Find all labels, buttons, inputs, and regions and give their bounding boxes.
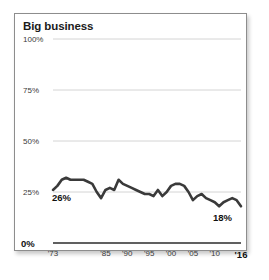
- screenshot-root: Big business 0%25%50%75%100% '73'85'90'9…: [0, 0, 269, 280]
- chart-card: Big business 0%25%50%75%100% '73'85'90'9…: [14, 13, 247, 251]
- x-tick-label-05: '05: [188, 249, 198, 258]
- y-tick-label-0%: 0%: [21, 238, 35, 249]
- y-tick-label-75%: 75%: [23, 86, 39, 95]
- x-tick-label-16: '16: [235, 249, 248, 260]
- x-tick-label-90: '90: [122, 249, 132, 258]
- x-tick-label-95: '95: [144, 249, 154, 258]
- x-tick-label-73: '73: [48, 249, 58, 258]
- value-annotation-26pct: 26%: [52, 192, 71, 203]
- y-tick-label-100%: 100%: [23, 35, 43, 44]
- x-tick-label-10: '10: [210, 249, 220, 258]
- y-tick-label-50%: 50%: [23, 137, 39, 146]
- x-tick-label-00: '00: [166, 249, 176, 258]
- value-annotation-18pct: 18%: [213, 212, 232, 223]
- gridlines-group: [53, 39, 241, 192]
- y-tick-label-25%: 25%: [23, 188, 39, 197]
- x-tick-label-85: '85: [100, 249, 110, 258]
